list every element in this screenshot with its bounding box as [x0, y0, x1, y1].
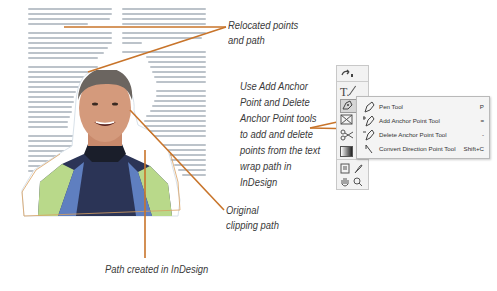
callout-line: and path — [228, 33, 298, 48]
line-icon[interactable] — [349, 86, 356, 96]
callout-line: InDesign — [240, 174, 320, 190]
callout-line: wrap path in — [240, 158, 320, 174]
pen-tool-flyout-menu: Pen Tool P Add Anchor Point Tool = Delet… — [356, 96, 490, 159]
convert-direction-point-icon — [363, 143, 375, 155]
callout-original-clipping-path: Original clipping path — [226, 203, 279, 233]
callout-line: Point and Delete — [240, 94, 320, 110]
callout-use-tools: Use Add Anchor Point and Delete Anchor P… — [240, 78, 320, 190]
callout-relocated-points: Relocated points and path — [228, 18, 298, 48]
callout-line: to add and delete — [240, 126, 320, 142]
menu-item-label: Pen Tool — [379, 103, 403, 110]
menu-item-delete-anchor-point-tool[interactable]: Delete Anchor Point Tool - — [361, 128, 487, 142]
menu-item-label: Delete Anchor Point Tool — [379, 131, 447, 138]
menu-item-label: Add Anchor Point Tool — [379, 117, 440, 124]
note-icon[interactable] — [340, 163, 366, 176]
type-glyph: T. — [340, 85, 349, 99]
menu-item-shortcut: = — [480, 117, 484, 124]
menu-item-shortcut: - — [482, 131, 484, 138]
delete-anchor-point-icon — [363, 129, 375, 141]
callout-line: Relocated points — [228, 18, 298, 33]
callout-line: Original — [226, 203, 279, 218]
menu-item-convert-direction-point-tool[interactable]: Convert Direction Point Tool Shift+C — [361, 142, 487, 156]
callout-line: Use Add Anchor — [240, 78, 320, 94]
menu-item-label: Convert Direction Point Tool — [379, 145, 456, 152]
callout-path-created: Path created in InDesign — [105, 262, 208, 277]
callout-line: clipping path — [226, 218, 279, 233]
menu-item-shortcut: Shift+C — [464, 145, 484, 152]
menu-item-add-anchor-point-tool[interactable]: Add Anchor Point Tool = — [361, 114, 487, 128]
menu-item-shortcut: P — [480, 103, 484, 110]
menu-item-pen-tool[interactable]: Pen Tool P — [361, 100, 487, 114]
hand-icon[interactable] — [340, 176, 366, 189]
pen-icon — [363, 101, 375, 113]
callout-line: points from the text — [240, 142, 320, 158]
add-anchor-point-icon — [363, 115, 375, 127]
callout-line: Anchor Point tools — [240, 110, 320, 126]
